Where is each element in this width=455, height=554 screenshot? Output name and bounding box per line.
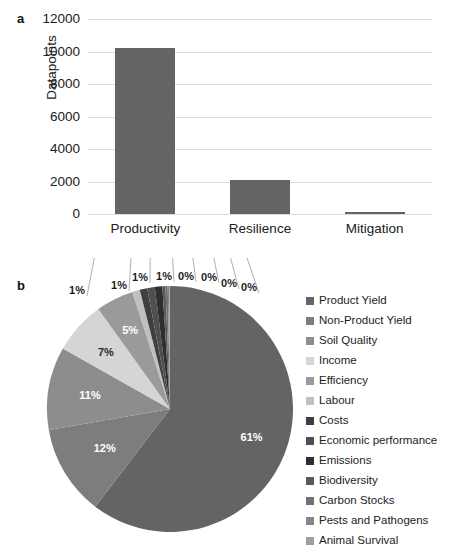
- legend-item: Economic performance: [306, 431, 454, 451]
- legend-swatch-icon: [306, 357, 314, 365]
- bar-chart-bar: [115, 48, 175, 214]
- pie-chart-area: [45, 284, 295, 534]
- legend-item-label: Emissions: [319, 455, 371, 467]
- legend-item: Animal Survival: [306, 531, 454, 551]
- legend-swatch-icon: [306, 397, 314, 405]
- legend-swatch-icon: [306, 477, 314, 485]
- panel-b-pie-chart: b 61%12%11%7%5%1%1%1%1%0%0%0%0% Product …: [0, 258, 455, 554]
- pie-leader-line: [150, 258, 152, 283]
- legend-item-label: Animal Survival: [319, 535, 398, 547]
- bar-chart-gridline: [88, 214, 432, 215]
- bar-chart-bar: [345, 212, 405, 214]
- pie-slice-percent-label: 1%: [156, 271, 172, 282]
- legend-item-label: Economic performance: [319, 435, 437, 447]
- legend-item-label: Income: [319, 355, 357, 367]
- pie-slice-percent-label: 7%: [98, 346, 114, 357]
- legend-item: Non-Product Yield: [306, 311, 454, 331]
- legend-item-label: Non-Product Yield: [319, 315, 412, 327]
- bar-chart-gridline: [88, 19, 432, 20]
- legend-swatch-icon: [306, 457, 314, 465]
- bar-chart-x-tick-label: Mitigation: [346, 221, 404, 236]
- pie-slice-percent-label: 1%: [69, 285, 85, 296]
- legend-swatch-icon: [306, 517, 314, 525]
- legend-item: Carbon Stocks: [306, 491, 454, 511]
- pie-slice-percent-label: 1%: [132, 272, 148, 283]
- pie-slice-percent-label: 0%: [201, 272, 217, 283]
- legend-swatch-icon: [306, 537, 314, 545]
- legend-item-label: Biodiversity: [319, 475, 378, 487]
- pie-slice-percent-label: 0%: [241, 282, 257, 293]
- legend-item: Soil Quality: [306, 331, 454, 351]
- legend-item: Costs: [306, 411, 454, 431]
- bar-chart-y-axis-title: Datapoints: [44, 8, 59, 128]
- legend-swatch-icon: [306, 417, 314, 425]
- pie-slice-percent-label: 11%: [79, 390, 100, 401]
- panel-a-bar-chart: a 120001000080006000400020000 Datapoints…: [0, 0, 455, 258]
- legend-item-label: Pests and Pathogens: [319, 515, 428, 527]
- legend-item: Income: [306, 351, 454, 371]
- legend-swatch-icon: [306, 437, 314, 445]
- pie-slice-percent-label: 5%: [122, 324, 138, 335]
- legend-item-label: Carbon Stocks: [319, 495, 394, 507]
- pie-slice-percent-label: 1%: [111, 280, 127, 291]
- pie-chart-svg: [45, 284, 295, 534]
- bar-chart-x-tick-label: Productivity: [110, 221, 180, 236]
- legend-item: Emissions: [306, 451, 454, 471]
- legend-swatch-icon: [306, 497, 314, 505]
- legend-item: Labour: [306, 391, 454, 411]
- legend-item-label: Product Yield: [319, 295, 387, 307]
- legend-item-label: Costs: [319, 415, 348, 427]
- legend-swatch-icon: [306, 337, 314, 345]
- bar-chart-y-tick-label: 0: [72, 207, 80, 221]
- bar-chart-y-tick-label: 4000: [50, 142, 80, 156]
- pie-slice-percent-label: 61%: [241, 431, 263, 442]
- bar-chart-y-tick-label: 2000: [50, 175, 80, 189]
- legend-item-label: Efficiency: [319, 375, 368, 387]
- legend-item-label: Soil Quality: [319, 335, 377, 347]
- legend-item-label: Labour: [319, 395, 355, 407]
- legend-swatch-icon: [306, 377, 314, 385]
- legend-item: Biodiversity: [306, 471, 454, 491]
- legend-swatch-icon: [306, 297, 314, 305]
- pie-chart-legend: Product YieldNon-Product YieldSoil Quali…: [306, 291, 454, 551]
- panel-b-label: b: [17, 279, 25, 292]
- pie-slice-percent-label: 12%: [94, 443, 116, 454]
- bar-chart-bar: [230, 180, 290, 214]
- legend-item: Product Yield: [306, 291, 454, 311]
- legend-swatch-icon: [306, 317, 314, 325]
- bar-chart-x-tick-label: Resilience: [229, 221, 291, 236]
- legend-item: Pests and Pathogens: [306, 511, 454, 531]
- bar-chart-plot-area: [88, 19, 432, 214]
- bar-chart-y-axis-ticks: 120001000080006000400020000: [0, 0, 84, 215]
- legend-item: Efficiency: [306, 371, 454, 391]
- pie-slice-percent-label: 0%: [178, 271, 194, 282]
- pie-slice-percent-label: 0%: [221, 278, 237, 289]
